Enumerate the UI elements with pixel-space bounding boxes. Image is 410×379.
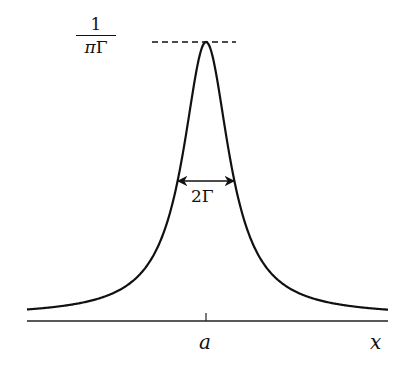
lorentzian-curve (27, 42, 388, 310)
axis-label: x (370, 330, 381, 354)
fraction-bar (76, 35, 116, 36)
peak-height-label: 1 πΓ (74, 14, 118, 57)
center-label: a (199, 330, 211, 354)
lorentzian-diagram: 1 πΓ 2Γ a x (0, 0, 410, 379)
peak-numerator: 1 (74, 14, 118, 34)
fwhm-label: 2Γ (191, 186, 214, 206)
peak-denominator: πΓ (74, 37, 118, 57)
